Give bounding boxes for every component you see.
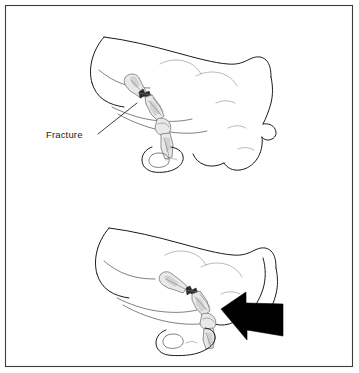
- canvas-background: [0, 0, 359, 373]
- fracture-label: Fracture: [46, 129, 83, 140]
- figure-canvas: Fracture: [0, 0, 359, 373]
- illustration-root: Fracture: [0, 0, 359, 373]
